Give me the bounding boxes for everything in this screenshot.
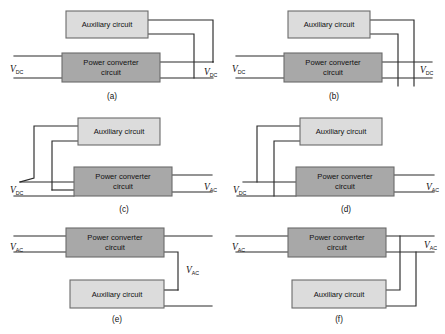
panel-d-output-label: VAC bbox=[426, 182, 439, 193]
panel-e-output-label: VAC bbox=[186, 265, 199, 276]
panel-c-caption: (c) bbox=[119, 205, 129, 214]
panel-a: Auxiliary circuit Power converter circui… bbox=[10, 11, 218, 101]
panel-f-caption: (f) bbox=[335, 315, 343, 324]
panel-c-output-label: VAC bbox=[204, 182, 217, 193]
panel-b-converter-label-2: circuit bbox=[323, 68, 344, 77]
panel-b-output-label: VDC bbox=[420, 65, 434, 76]
figure-canvas: Auxiliary circuit Power converter circui… bbox=[0, 0, 445, 334]
panel-b: Auxiliary circuit Power converter circui… bbox=[232, 11, 434, 101]
panel-c-converter-label-1: Power converter bbox=[95, 172, 151, 181]
panel-e-auxiliary-label: Auxiliary circuit bbox=[92, 290, 144, 299]
panel-f-output-label: VAC bbox=[424, 240, 437, 251]
panel-d-auxiliary-label: Auxiliary circuit bbox=[316, 127, 368, 136]
panel-b-input-label: VDC bbox=[232, 64, 246, 75]
panel-e-input-label: VAC bbox=[10, 242, 23, 253]
panel-a-input-label: VDC bbox=[10, 64, 24, 75]
panel-a-caption: (a) bbox=[107, 92, 117, 101]
panel-a-converter-label-1: Power converter bbox=[83, 58, 139, 67]
panel-a-converter-label-2: circuit bbox=[101, 68, 122, 77]
panel-a-output-label: VDC bbox=[204, 67, 218, 78]
panel-b-converter-label-1: Power converter bbox=[305, 58, 361, 67]
panel-a-auxiliary-label: Auxiliary circuit bbox=[82, 20, 134, 29]
block-diagram: Auxiliary circuit Power converter circui… bbox=[0, 0, 445, 334]
panel-d-caption: (d) bbox=[341, 205, 351, 214]
panel-e-caption: (e) bbox=[112, 315, 122, 324]
panel-c-converter-label-2: circuit bbox=[113, 182, 134, 191]
panel-c-input-label: VDC bbox=[10, 185, 24, 196]
panel-f: Power converter circuit Auxiliary circui… bbox=[232, 228, 437, 324]
panel-d: Auxiliary circuit Power converter circui… bbox=[233, 118, 439, 214]
panel-f-input-label: VAC bbox=[232, 242, 245, 253]
panel-c: Auxiliary circuit Power converter circui… bbox=[10, 118, 217, 214]
panel-b-caption: (b) bbox=[329, 92, 339, 101]
panel-f-converter-label-2: circuit bbox=[327, 243, 348, 252]
panel-f-auxiliary-label: Auxiliary circuit bbox=[314, 290, 366, 299]
panel-b-auxiliary-label: Auxiliary circuit bbox=[304, 20, 356, 29]
panel-d-input-label: VDC bbox=[233, 185, 247, 196]
panel-d-converter-label-1: Power converter bbox=[317, 172, 373, 181]
panel-e-converter-label-1: Power converter bbox=[87, 233, 143, 242]
panel-f-converter-label-1: Power converter bbox=[309, 233, 365, 242]
panel-e-converter-label-2: circuit bbox=[105, 243, 126, 252]
panel-e: Power converter circuit Auxiliary circui… bbox=[10, 228, 212, 324]
panel-c-auxiliary-label: Auxiliary circuit bbox=[94, 127, 146, 136]
panel-d-converter-label-2: circuit bbox=[335, 182, 356, 191]
